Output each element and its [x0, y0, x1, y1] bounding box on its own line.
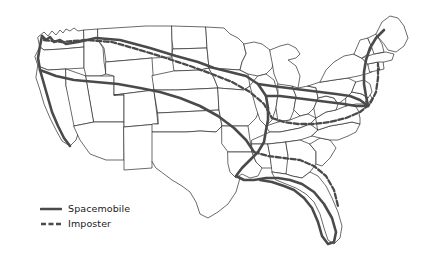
state-arizona: [74, 122, 124, 160]
state-nebraska: [152, 68, 218, 90]
legend-item-imposter: Imposter: [40, 216, 130, 231]
state-florida: [272, 172, 342, 244]
legend-item-spacemobile: Spacemobile: [40, 201, 130, 216]
us-route-map: [0, 0, 434, 273]
dashed-line-swatch: [40, 219, 62, 229]
map-legend: Spacemobile Imposter: [40, 201, 130, 231]
state-minnesota: [206, 27, 246, 70]
state-north-dakota: [172, 26, 207, 49]
legend-label-spacemobile: Spacemobile: [68, 203, 130, 214]
legend-label-imposter: Imposter: [68, 218, 111, 229]
solid-line-swatch: [40, 204, 62, 214]
map-svg: [0, 0, 434, 273]
state-oregon: [35, 47, 84, 70]
state-wisconsin: [240, 42, 274, 76]
